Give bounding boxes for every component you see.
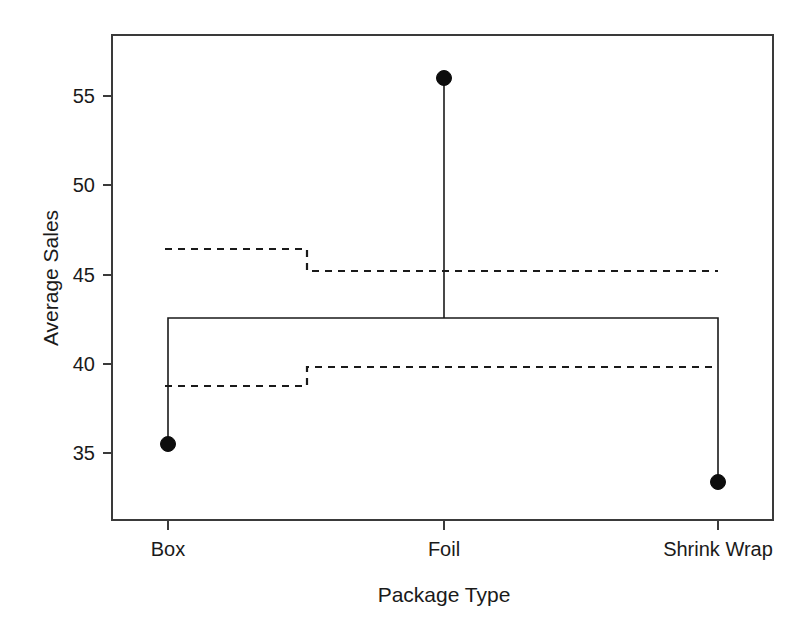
lower-limit-dashed-line — [165, 367, 718, 386]
y-tick-label-55: 55 — [73, 85, 95, 107]
data-point-shrink-wrap — [711, 475, 726, 490]
y-tick-label-35: 35 — [73, 442, 95, 464]
x-tick-label-box: Box — [151, 538, 185, 560]
y-axis-title: Average Sales — [39, 210, 62, 346]
x-axis-tick-labels: Box Foil Shrink Wrap — [151, 538, 773, 560]
y-tick-label-40: 40 — [73, 353, 95, 375]
y-tick-label-45: 45 — [73, 264, 95, 286]
x-axis-ticks — [168, 520, 718, 530]
data-point-markers — [161, 71, 726, 490]
x-tick-label-shrink-wrap: Shrink Wrap — [663, 538, 773, 560]
data-point-foil — [437, 71, 452, 86]
plot-frame — [112, 35, 773, 520]
x-tick-label-foil: Foil — [428, 538, 460, 560]
y-axis-tick-labels: 55 50 45 40 35 — [73, 85, 95, 464]
y-tick-label-50: 50 — [73, 174, 95, 196]
data-point-box — [161, 437, 176, 452]
upper-limit-dashed-line — [165, 249, 718, 271]
y-axis-ticks — [103, 96, 112, 453]
mean-reference-solid-line — [168, 318, 718, 482]
x-axis-title: Package Type — [378, 583, 511, 606]
main-effects-plot: 55 50 45 40 35 Box Foil Shrink Wrap — [0, 0, 811, 629]
chart-container: 55 50 45 40 35 Box Foil Shrink Wrap — [0, 0, 811, 629]
